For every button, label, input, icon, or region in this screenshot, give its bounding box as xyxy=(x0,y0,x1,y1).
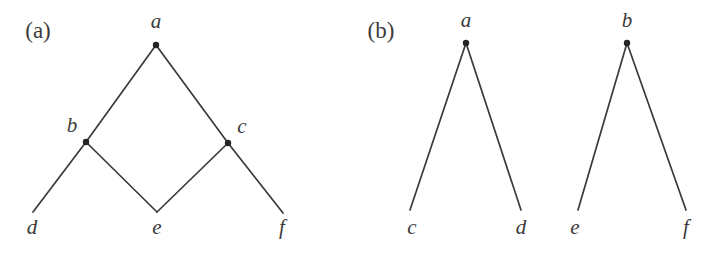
edge-b-d xyxy=(33,142,86,212)
vertex-dot-c xyxy=(225,140,231,146)
vertex-label-f: f xyxy=(683,215,692,239)
edge-c-e xyxy=(157,143,228,212)
vertex-label-e: e xyxy=(152,215,161,239)
edge-a-b xyxy=(86,45,156,142)
figure-canvas: abcdef (a) abcdef (b) xyxy=(0,0,714,255)
edge-b-e xyxy=(578,43,627,210)
vertex-label-c: c xyxy=(237,114,247,138)
edge-b-e xyxy=(86,142,157,212)
vertex-label-a: a xyxy=(151,9,162,33)
panel-b-edges xyxy=(410,43,686,210)
vertex-label-d: d xyxy=(27,215,38,239)
vertex-label-f: f xyxy=(279,215,288,239)
vertex-dot-b xyxy=(83,139,89,145)
panel-a-vertex-dots xyxy=(83,42,231,146)
vertex-label-b: b xyxy=(622,8,633,32)
edge-a-c xyxy=(156,45,228,143)
panel-b: abcdef (b) xyxy=(368,8,692,239)
vertex-label-e: e xyxy=(570,215,579,239)
panel-tag-b: (b) xyxy=(368,18,395,43)
vertex-label-c: c xyxy=(407,215,417,239)
edge-b-f xyxy=(627,43,686,210)
panel-a: abcdef (a) xyxy=(25,9,288,239)
vertex-label-d: d xyxy=(516,215,527,239)
vertex-dot-a xyxy=(153,42,159,48)
edge-c-f xyxy=(228,143,283,213)
panel-tag-a: (a) xyxy=(25,18,51,43)
edge-a-c xyxy=(410,43,466,210)
vertex-label-b: b xyxy=(67,113,78,137)
vertex-label-a: a xyxy=(461,8,472,32)
vertex-dot-a xyxy=(463,40,469,46)
figure-container: abcdef (a) abcdef (b) xyxy=(0,0,714,255)
panel-b-vertex-labels: abcdef xyxy=(407,8,692,239)
vertex-dot-b xyxy=(624,40,630,46)
panel-b-vertex-dots xyxy=(463,40,630,46)
edge-a-d xyxy=(466,43,521,210)
